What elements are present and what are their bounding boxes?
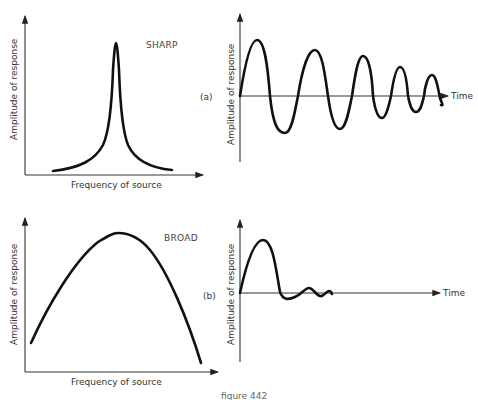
broad-time-response-plot: Time Amplitude of response bbox=[226, 220, 465, 362]
lightly-damped-oscillation bbox=[240, 40, 443, 133]
y-axis-label: Amplitude of response bbox=[9, 38, 19, 140]
figure-canvas: SHARP Frequency of source Amplitude of r… bbox=[0, 0, 478, 400]
broad-tag: BROAD bbox=[164, 233, 198, 243]
y-axis-label: Amplitude of response bbox=[226, 243, 236, 345]
sharp-frequency-plot: SHARP Frequency of source Amplitude of r… bbox=[9, 16, 203, 190]
sharp-resonance-curve bbox=[53, 43, 172, 171]
panel-b-marker: (b) bbox=[203, 291, 216, 301]
broad-resonance-curve bbox=[31, 233, 201, 363]
figure-caption: figure 442 bbox=[221, 391, 267, 400]
y-axis-label: Amplitude of response bbox=[226, 43, 236, 145]
x-axis-label: Frequency of source bbox=[71, 180, 162, 190]
heavily-damped-response bbox=[240, 240, 332, 299]
sharp-tag: SHARP bbox=[146, 40, 178, 50]
time-axis-label: Time bbox=[450, 91, 473, 101]
broad-frequency-plot: BROAD Frequency of source Amplitude of r… bbox=[9, 218, 218, 387]
y-axis-label: Amplitude of response bbox=[9, 243, 19, 345]
panel-a-marker: (a) bbox=[200, 92, 213, 102]
sharp-time-response-plot: Time Amplitude of response bbox=[226, 14, 473, 162]
time-axis-label: Time bbox=[442, 288, 465, 298]
x-axis-label: Frequency of source bbox=[71, 377, 162, 387]
